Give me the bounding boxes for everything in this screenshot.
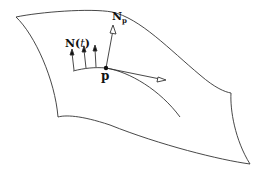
normal-p-arrowhead — [110, 25, 116, 34]
normal-t-vector-2 — [84, 50, 86, 68]
label-point-p: p — [101, 70, 109, 82]
label-normal-t: N(t) — [65, 38, 90, 49]
normal-t-arrowhead-3 — [93, 45, 97, 51]
label-normal-p: Np — [112, 11, 127, 24]
surface-outline — [16, 10, 250, 164]
tangent-arrowhead — [157, 77, 166, 82]
normal-t-vector-3 — [95, 49, 96, 67]
normal-t-vector-1 — [72, 53, 74, 70]
surface-diagram — [0, 0, 266, 170]
diagram-canvas: N(t) Np p — [0, 0, 266, 170]
surface-curve — [73, 68, 180, 117]
normal-p-vector — [106, 30, 113, 68]
